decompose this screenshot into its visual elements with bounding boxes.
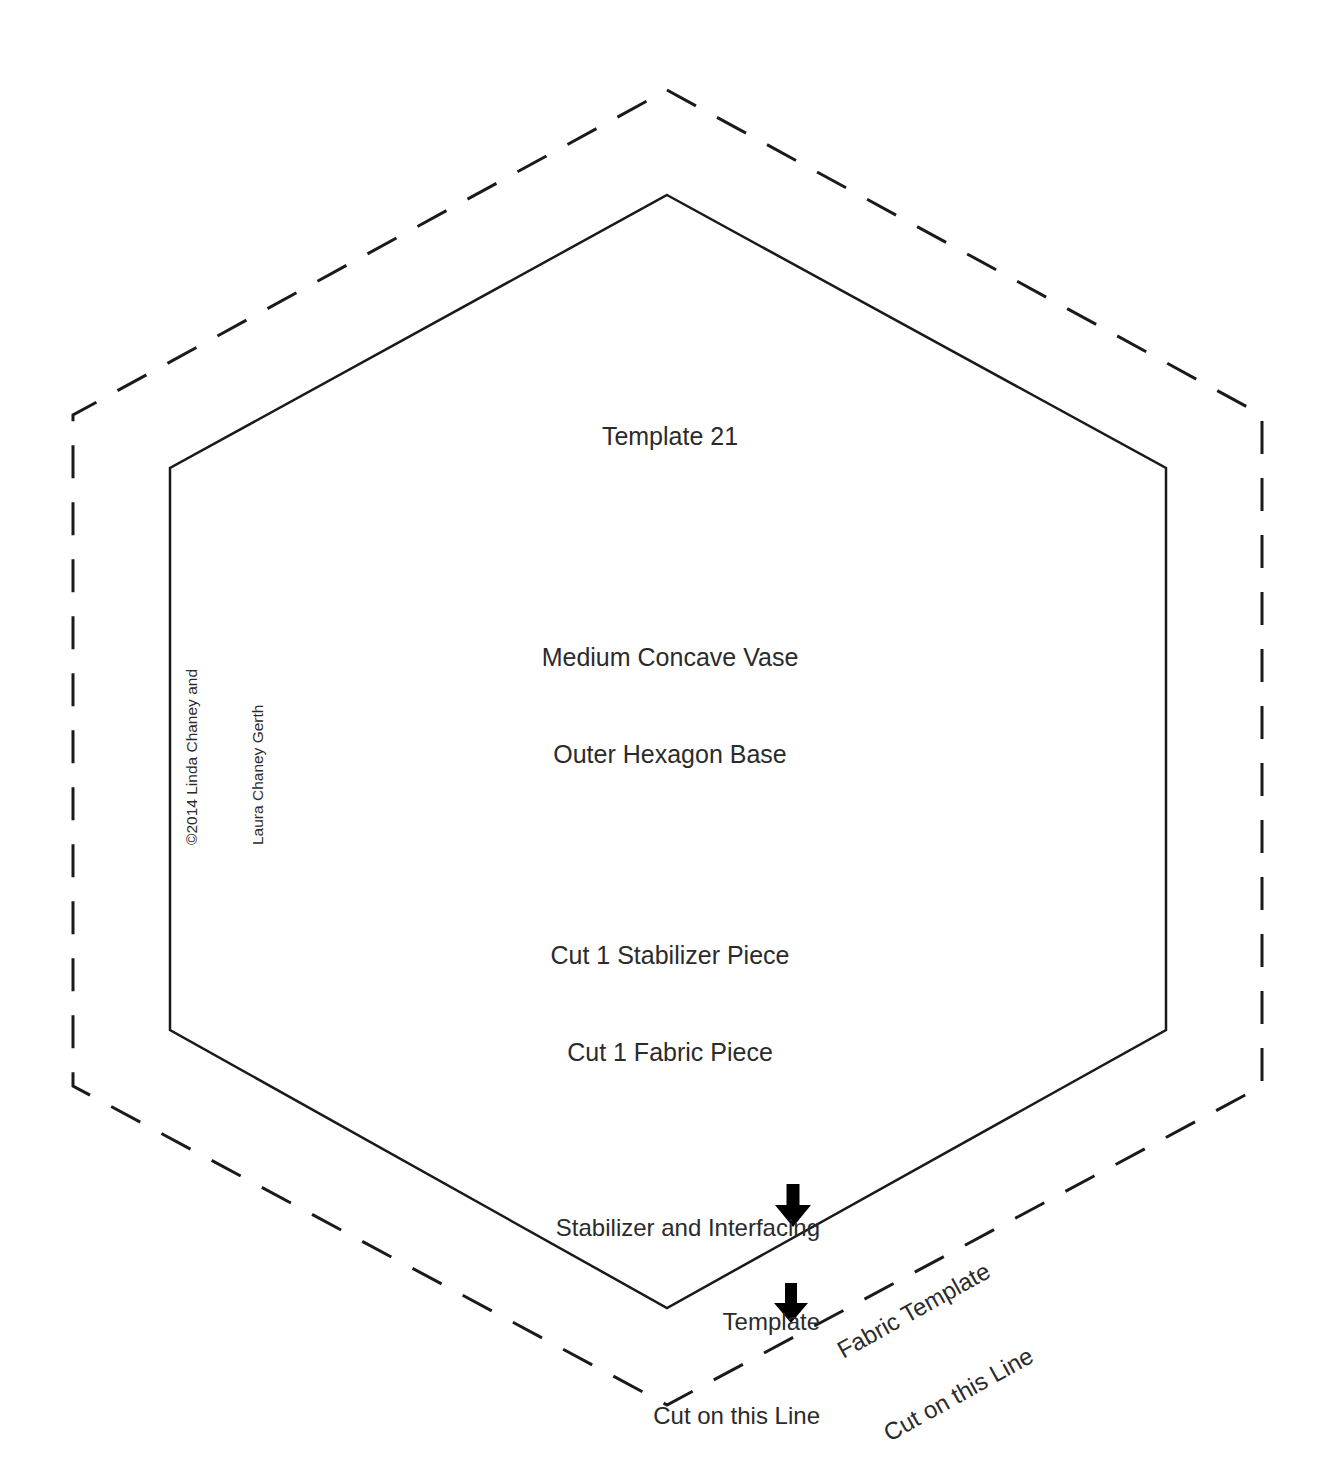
fabric-note-line-1: Fabric Template: [832, 1256, 996, 1366]
stabilizer-cut-annotation: Stabilizer and Interfacing Template Cut …: [380, 1150, 820, 1479]
stabilizer-note-line-2: Template: [380, 1306, 820, 1337]
copyright-notice: ©2014 Linda Chaney and Laura Chaney Gert…: [137, 669, 313, 845]
cut-instruction-line-1: Cut 1 Stabilizer Piece: [0, 939, 1340, 972]
cut-instruction-line-2: Cut 1 Fabric Piece: [0, 1036, 1340, 1069]
stabilizer-note-line-1: Stabilizer and Interfacing: [380, 1212, 820, 1243]
template-number: Template 21: [0, 420, 1340, 453]
fabric-note-line-2: Cut on this Line: [878, 1339, 1042, 1449]
copyright-line-2: Laura Chaney Gerth: [247, 669, 269, 845]
template-sheet: Template 21 Medium Concave Vase Outer He…: [0, 0, 1340, 1479]
stabilizer-note-line-3: Cut on this Line: [380, 1400, 820, 1431]
copyright-line-1: ©2014 Linda Chaney and: [181, 669, 203, 845]
